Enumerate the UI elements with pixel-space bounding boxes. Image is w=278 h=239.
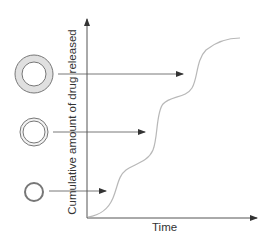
large-particle-icon: [15, 55, 53, 93]
drug-release-diagram: Cumulative amount of drug released Time: [0, 0, 278, 239]
x-axis-label: Time: [152, 221, 177, 233]
diagram-graphics: [0, 0, 278, 239]
small-particle-icon: [25, 183, 43, 201]
y-axis-label: Cumulative amount of drug released: [66, 29, 78, 214]
medium-particle-icon: [20, 118, 48, 146]
release-curve: [88, 38, 240, 217]
